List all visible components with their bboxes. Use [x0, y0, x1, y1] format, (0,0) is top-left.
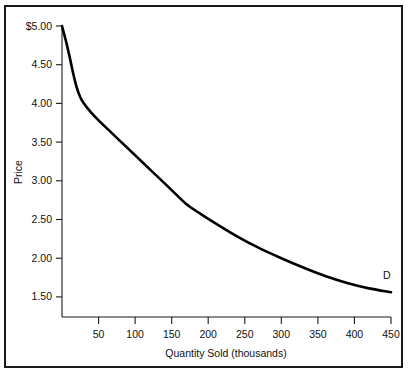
- demand-curve-line: [62, 26, 391, 292]
- y-tick-label: 4.00: [32, 97, 53, 109]
- x-tick-label: 250: [236, 328, 254, 340]
- x-tick-label: 50: [93, 328, 105, 340]
- x-tick-label: 150: [163, 328, 181, 340]
- y-axis-ticks: [56, 26, 62, 297]
- demand-curve-chart: $5.00 4.50 4.00 3.50 3.00 2.50 2.00 1.50…: [0, 0, 408, 375]
- x-axis-tick-labels: 50 100 150 200 250 300 350 400 450: [93, 328, 400, 340]
- x-tick-label: 300: [273, 328, 291, 340]
- x-tick-label: 400: [346, 328, 364, 340]
- x-tick-label: 350: [309, 328, 327, 340]
- y-tick-label: 3.00: [32, 174, 53, 186]
- x-axis-title: Quantity Sold (thousands): [165, 347, 286, 359]
- y-tick-label: $5.00: [26, 20, 52, 32]
- x-tick-label: 200: [199, 328, 217, 340]
- y-tick-label: 2.50: [32, 213, 53, 225]
- y-tick-label: 4.50: [32, 58, 53, 70]
- y-tick-label: 1.50: [32, 290, 53, 302]
- x-axis-ticks: [99, 317, 391, 324]
- figure-canvas: $5.00 4.50 4.00 3.50 3.00 2.50 2.00 1.50…: [0, 0, 408, 375]
- y-tick-label: 2.00: [32, 252, 53, 264]
- y-tick-label: 3.50: [32, 136, 53, 148]
- x-tick-label: 100: [126, 328, 144, 340]
- demand-curve-label: D: [383, 269, 391, 281]
- x-tick-label: 450: [382, 328, 400, 340]
- y-axis-tick-labels: $5.00 4.50 4.00 3.50 3.00 2.50 2.00 1.50: [26, 20, 52, 303]
- y-axis-title: Price: [12, 160, 24, 184]
